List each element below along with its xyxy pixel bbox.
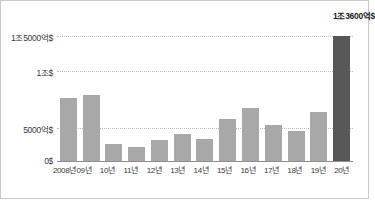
bar-20[interactable]: 1조3600억$ bbox=[333, 36, 350, 161]
bar-19[interactable] bbox=[310, 112, 327, 161]
bar-series: 1조3600억$ bbox=[57, 23, 353, 161]
x-tick-label-18: 18년 bbox=[283, 164, 306, 175]
y-tick-label-5000: 5000억$ bbox=[1, 123, 53, 135]
bar-cell-15 bbox=[216, 23, 239, 161]
x-tick-label-14: 14년 bbox=[190, 164, 213, 175]
x-tick-label-12: 12년 bbox=[143, 164, 166, 175]
x-tick-label-20: 20년 bbox=[330, 164, 353, 175]
bar-12[interactable] bbox=[151, 140, 168, 161]
x-tick-label-10: 10년 bbox=[96, 164, 119, 175]
bar-cell-18 bbox=[285, 23, 308, 161]
bar-17[interactable] bbox=[265, 125, 282, 161]
bar-2008[interactable] bbox=[60, 98, 77, 162]
y-tick-label-0: 0$ bbox=[1, 156, 53, 166]
y-tick-label-10000: 1조$ bbox=[1, 66, 53, 78]
bar-11[interactable] bbox=[128, 147, 145, 161]
bar-cell-16 bbox=[239, 23, 262, 161]
bar-cell-20: 1조3600억$ bbox=[330, 23, 353, 161]
bar-15[interactable] bbox=[219, 119, 236, 161]
x-tick-label-16: 16년 bbox=[237, 164, 260, 175]
bar-18[interactable] bbox=[288, 131, 305, 161]
x-tick-label-15: 15년 bbox=[213, 164, 236, 175]
bar-09[interactable] bbox=[83, 95, 100, 161]
x-tick-label-09: 09년 bbox=[72, 164, 95, 175]
x-axis-labels: 2008년 09년 10년 11년 12년 13년 14년 15년 16년 17… bbox=[57, 164, 353, 175]
x-tick-label-11: 11년 bbox=[119, 164, 142, 175]
bar-cell-17 bbox=[262, 23, 285, 161]
bar-cell-11 bbox=[125, 23, 148, 161]
bar-cell-13 bbox=[171, 23, 194, 161]
bar-cell-12 bbox=[148, 23, 171, 161]
x-tick-label-19: 19년 bbox=[307, 164, 330, 175]
bar-cell-14 bbox=[194, 23, 217, 161]
bar-value-label-20: 1조3600억$ bbox=[333, 9, 375, 21]
bar-13[interactable] bbox=[174, 134, 191, 161]
bar-cell-2008 bbox=[57, 23, 80, 161]
bar-cell-09 bbox=[80, 23, 103, 161]
x-tick-label-17: 17년 bbox=[260, 164, 283, 175]
bar-14[interactable] bbox=[196, 139, 213, 161]
x-tick-label-13: 13년 bbox=[166, 164, 189, 175]
y-tick-label-15000: 1조5000억$ bbox=[1, 31, 53, 43]
bar-cell-10 bbox=[103, 23, 126, 161]
bar-cell-19 bbox=[307, 23, 330, 161]
bar-10[interactable] bbox=[105, 144, 122, 161]
chart-frame: 1조5000억$ 1조$ 5000억$ 0$ bbox=[0, 0, 369, 199]
bar-16[interactable] bbox=[242, 108, 259, 161]
